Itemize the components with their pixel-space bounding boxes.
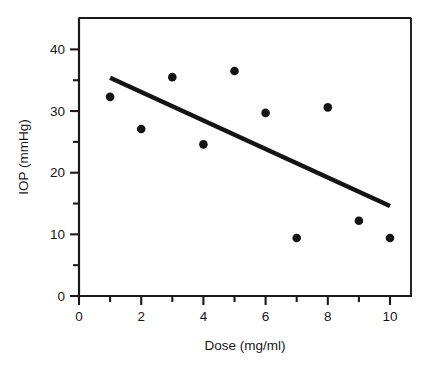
data-point: [386, 234, 395, 243]
x-tick-label: 2: [137, 309, 145, 324]
data-point: [324, 103, 333, 112]
data-point: [199, 140, 208, 149]
data-point: [137, 125, 146, 134]
data-point: [168, 73, 177, 82]
data-point: [355, 216, 364, 225]
y-tick-label: 10: [50, 227, 65, 242]
data-point: [106, 93, 115, 102]
y-tick-label: 0: [57, 289, 65, 304]
data-point: [292, 234, 301, 243]
y-axis-title: IOP (mmHg): [16, 119, 31, 195]
regression-line: [110, 78, 390, 206]
data-point: [261, 109, 270, 118]
x-tick-label: 6: [262, 309, 270, 324]
chart-figure: 0102030400246810Dose (mg/ml)IOP (mmHg): [0, 0, 442, 369]
x-tick-label: 0: [75, 309, 83, 324]
x-tick-label: 4: [200, 309, 208, 324]
x-tick-label: 8: [324, 309, 332, 324]
x-tick-label: 10: [382, 309, 397, 324]
scatter-plot-svg: 0102030400246810Dose (mg/ml)IOP (mmHg): [0, 0, 442, 369]
y-tick-label: 40: [50, 42, 65, 57]
y-tick-label: 20: [50, 165, 65, 180]
y-tick-label: 30: [50, 104, 65, 119]
data-point: [230, 67, 239, 76]
x-axis-title: Dose (mg/ml): [204, 338, 285, 353]
